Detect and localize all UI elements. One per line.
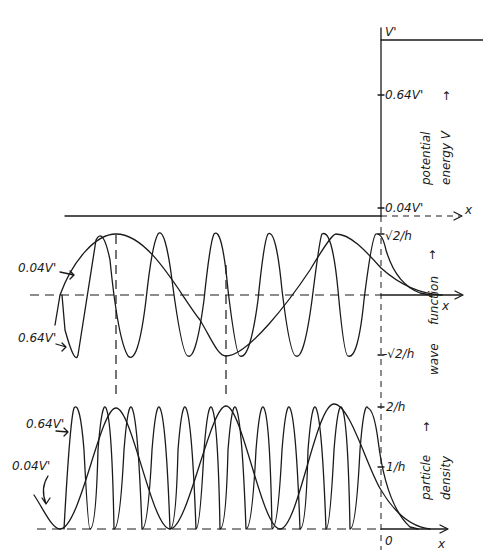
label-sqrt2h: √2/h [385, 229, 412, 243]
wave-label-0.04V: 0.04V' [18, 261, 56, 275]
pointer-arrow-icon [42, 476, 50, 504]
density-curve-0.64V [64, 407, 418, 529]
density-label-0.64V: 0.64V' [26, 417, 64, 431]
label-origin-0: 0 [385, 534, 393, 548]
label-0.04V: 0.04V' [385, 201, 423, 215]
density-curve-0.04V [34, 404, 430, 529]
wave-axis-arrow-icon: → [425, 250, 439, 260]
potential-axis-arrow-icon: → [439, 91, 453, 101]
svg-text:energy V: energy V [439, 130, 453, 185]
wave-axis-title: wave function → [425, 250, 441, 375]
wave-label-0.64V: 0.64V' [18, 331, 56, 345]
density-x-label: x [437, 537, 446, 551]
label-1h: 1/h [386, 460, 405, 474]
density-axis-arrow-icon: → [419, 422, 433, 432]
density-label-0.04V: 0.04V' [12, 459, 50, 473]
svg-text:potential: potential [419, 131, 433, 186]
svg-text:wave: wave [427, 343, 441, 375]
finite-well-diagram: V' 0.64V' 0.04V' x potential energy V → … [0, 0, 483, 559]
svg-text:function: function [427, 276, 441, 325]
svg-text:density: density [439, 455, 453, 500]
label-V-prime: V' [385, 25, 397, 39]
pointer-arrow-icon [56, 343, 66, 351]
density-axis-title: particle density → [419, 422, 453, 501]
wave-function-panel: 0.04V' 0.64V' √2/h -√2/h x wave function… [18, 229, 463, 375]
density-panel: 0.64V' 0.04V' 2/h 1/h 0 x particle densi… [12, 400, 453, 551]
svg-text:particle: particle [419, 455, 433, 501]
potential-axis-title: potential energy V → [419, 91, 453, 186]
label-0.64V: 0.64V' [385, 88, 423, 102]
potential-x-label: x [464, 203, 473, 217]
potential-panel: V' 0.64V' 0.04V' x potential energy V → [65, 25, 483, 220]
wave-x-label: x [441, 299, 450, 313]
label-2h: 2/h [386, 400, 405, 414]
label-neg-sqrt2h: -√2/h [383, 347, 414, 361]
